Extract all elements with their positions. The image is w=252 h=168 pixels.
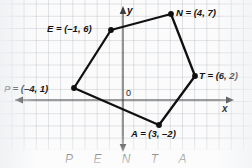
vertex-T [192,73,198,79]
label-point-N: N = (4, 7) [176,8,216,18]
caption-letter-2: E [93,152,102,166]
label-point-T: T = (6, 2) [199,71,238,81]
caption-letter-3: N [122,152,131,166]
origin-label: 0 [126,89,131,98]
label-point-A: A = (3, –2) [131,129,176,139]
vertex-P [71,85,77,91]
figure-page: P = (–4, 1) E = (–1, 6) N = (4, 7) T = (… [0,0,252,168]
vertex-N [168,11,174,17]
pentagon-shape [74,14,195,125]
label-point-E: E = (–1, 6) [47,24,92,34]
y-axis-label: y [127,6,133,16]
label-point-P: P = (–4, 1) [4,84,48,94]
caption-letter-4: T [151,152,159,166]
caption-pentagon-letters: P E N T A [0,152,252,166]
x-axis [15,97,234,104]
caption-letter-5: A [178,152,187,166]
caption-letter-1: P [65,152,74,166]
vertex-E [108,27,114,33]
x-axis-label: x [222,104,228,114]
